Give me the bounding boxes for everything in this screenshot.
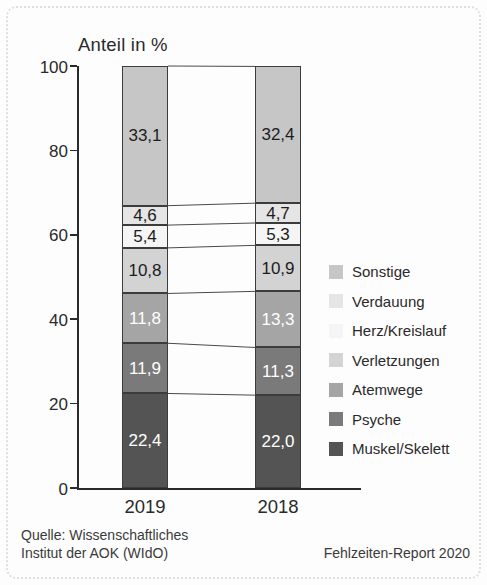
- bar-segment-verdauung-2019: 4,6: [122, 206, 168, 225]
- report-label: Fehlzeiten-Report 2020: [324, 545, 470, 561]
- legend-swatch: [329, 353, 343, 367]
- legend-label: Muskel/Skelett: [352, 440, 450, 457]
- legend-item-sonstige: Sonstige: [329, 263, 410, 280]
- segment-value-label: 5,4: [133, 228, 157, 245]
- x-category-label-2018: 2018: [238, 496, 318, 518]
- segment-value-label: 10,9: [261, 260, 294, 277]
- legend-label: Verletzungen: [352, 352, 440, 369]
- bar-segment-atemwege-2019: 11,8: [122, 293, 168, 343]
- x-category-label-2019: 2019: [105, 496, 185, 518]
- bar-segment-herz-kreislauf-2019: 5,4: [122, 225, 168, 248]
- bar-segment-muskel-skelett-2018: 22,0: [255, 395, 301, 488]
- legend-item-verdauung: Verdauung: [329, 293, 425, 310]
- y-tick-label: 80: [24, 143, 68, 160]
- legend-swatch: [329, 383, 343, 397]
- bar-segment-herz-kreislauf-2018: 5,3: [255, 223, 301, 245]
- legend-item-verletzungen: Verletzungen: [329, 352, 440, 369]
- legend-label: Atemwege: [352, 381, 423, 398]
- legend-label: Herz/Kreislauf: [352, 322, 446, 339]
- bar-segment-verletzungen-2019: 10,8: [122, 248, 168, 294]
- y-tick-label: 0: [24, 481, 68, 498]
- legend-swatch: [329, 265, 343, 279]
- y-tick-mark: [70, 403, 77, 405]
- y-axis: [77, 66, 79, 488]
- bar-segment-verletzungen-2018: 10,9: [255, 245, 301, 291]
- legend-swatch: [329, 412, 343, 426]
- y-tick-label: 100: [24, 59, 68, 76]
- bar-segment-atemwege-2018: 13,3: [255, 291, 301, 347]
- bar-segment-psyche-2019: 11,9: [122, 343, 168, 393]
- legend-label: Sonstige: [352, 263, 410, 280]
- segment-value-label: 11,8: [129, 310, 161, 327]
- legend-swatch: [329, 324, 343, 338]
- segment-value-label: 11,9: [129, 360, 161, 377]
- source-note-line2: Institut der AOK (WIdO): [21, 545, 188, 563]
- x-axis: [77, 488, 361, 490]
- legend-item-psyche: Psyche: [329, 411, 401, 428]
- legend-label: Psyche: [352, 411, 401, 428]
- segment-value-label: 4,6: [133, 207, 157, 224]
- y-tick-mark: [70, 487, 77, 489]
- bar-segment-verdauung-2018: 4,7: [255, 203, 301, 223]
- y-tick-mark: [70, 234, 77, 236]
- legend-item-herz-kreislauf: Herz/Kreislauf: [329, 322, 446, 339]
- legend-item-atemwege: Atemwege: [329, 381, 423, 398]
- segment-value-label: 11,3: [262, 363, 294, 380]
- legend-swatch: [329, 442, 343, 456]
- y-tick-mark: [70, 65, 77, 67]
- bar-segment-muskel-skelett-2019: 22,4: [122, 393, 168, 488]
- source-note: Quelle: Wissenschaftliches Institut der …: [21, 527, 188, 563]
- bar-segment-sonstige-2019: 33,1: [122, 66, 168, 206]
- source-note-line1: Quelle: Wissenschaftliches: [21, 527, 188, 545]
- legend-item-muskel-skelett: Muskel/Skelett: [329, 440, 450, 457]
- segment-value-label: 22,4: [128, 432, 161, 449]
- legend-swatch: [329, 294, 343, 308]
- y-tick-mark: [70, 150, 77, 152]
- segment-value-label: 5,3: [266, 226, 290, 243]
- y-tick-label: 20: [24, 396, 68, 413]
- y-tick-mark: [70, 318, 77, 320]
- segment-value-label: 33,1: [128, 127, 161, 144]
- segment-value-label: 4,7: [266, 205, 290, 222]
- bar-segment-psyche-2018: 11,3: [255, 347, 301, 395]
- bar-segment-sonstige-2018: 32,4: [255, 66, 301, 203]
- y-tick-label: 40: [24, 312, 68, 329]
- segment-value-label: 13,3: [261, 311, 294, 328]
- figure: Anteil in % 02040608010022,411,911,810,8…: [0, 0, 487, 585]
- segment-value-label: 32,4: [261, 126, 294, 143]
- legend-label: Verdauung: [352, 293, 425, 310]
- y-tick-label: 60: [24, 227, 68, 244]
- segment-value-label: 22,0: [261, 433, 294, 450]
- segment-value-label: 10,8: [128, 262, 161, 279]
